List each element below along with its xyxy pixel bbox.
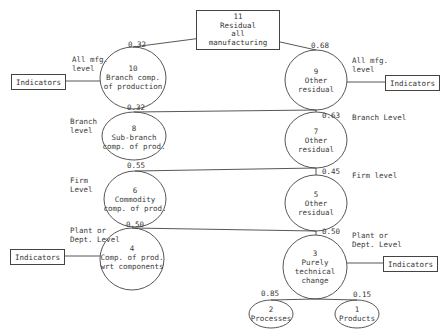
diagram-lines xyxy=(0,0,447,336)
indicators-box-all-left: Indicators xyxy=(11,74,66,90)
root-line3: manufacturing xyxy=(209,39,268,48)
node-10-text: 10Branch comp.of production xyxy=(100,64,166,91)
weight-9: 0.68 xyxy=(311,41,329,50)
node-7-text: 7Otherresidual xyxy=(285,127,347,154)
node-6-text: 6Commoditycomp. of prod. xyxy=(103,186,167,213)
level-plant-right: Plant orDept. Level xyxy=(352,231,402,249)
node-3-text: 3Purelytechnicalchange xyxy=(283,249,347,285)
level-branch-right: Branch Level xyxy=(352,113,406,122)
weight-8: 0.32 xyxy=(127,103,145,112)
level-firm-left: FirmLevel xyxy=(70,176,93,194)
weight-5: 0.45 xyxy=(322,167,340,176)
weight-2: 0.85 xyxy=(261,289,279,298)
node-8-text: 8Sub-branchcomp. of prod. xyxy=(102,124,166,151)
level-all-right: All mfg.level xyxy=(352,56,388,74)
weight-6: 0.55 xyxy=(127,161,145,170)
level-plant-left: Plant orDept. Level xyxy=(70,226,120,244)
node-2-text: 2Processes xyxy=(249,305,293,323)
weight-4: 0.50 xyxy=(126,220,144,229)
node-1-text: 1Products xyxy=(335,305,379,323)
node-9-text: 9Otherresidual xyxy=(285,67,347,94)
indicators-box-plant-left: Indicators xyxy=(10,249,65,265)
level-branch-left: Branchlevel xyxy=(70,117,97,135)
weight-3: 0.50 xyxy=(322,227,340,236)
weight-7: 0.63 xyxy=(322,111,340,120)
node-5-text: 5Otherresidual xyxy=(285,190,347,217)
level-firm-right: Firm level xyxy=(352,171,397,180)
weight-10: 0.32 xyxy=(128,40,146,49)
indicators-box-plant-right: Indicators xyxy=(383,256,438,272)
indicators-box-all-right: Indicators xyxy=(385,75,440,91)
root-node-box: 11 Residual all manufacturing xyxy=(196,10,280,50)
weight-1: 0.15 xyxy=(353,290,371,299)
node-4-text: 4Comp. of prod.wrt components xyxy=(98,244,166,271)
